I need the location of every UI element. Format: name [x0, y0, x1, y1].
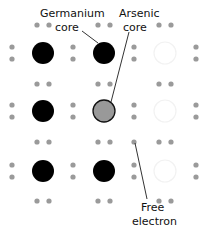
germanium-core — [93, 42, 115, 64]
valence-electron — [9, 102, 14, 107]
germanium-core — [32, 160, 54, 182]
valence-electron — [70, 44, 75, 49]
valence-electron — [131, 102, 136, 107]
valence-electron — [131, 114, 136, 119]
valence-electron — [34, 198, 39, 203]
valence-electron — [131, 44, 136, 49]
free-electron-label-line2: electron — [132, 215, 177, 228]
valence-electron — [46, 22, 51, 27]
valence-electron — [9, 162, 14, 167]
germanium-core — [93, 160, 115, 182]
valence-electron — [9, 114, 14, 119]
valence-electron — [95, 139, 100, 144]
valence-electron — [131, 162, 136, 167]
atom-cores — [32, 42, 176, 182]
valence-electron — [193, 56, 198, 61]
valence-electron — [168, 139, 173, 144]
valence-electron — [70, 102, 75, 107]
valence-electron — [95, 22, 100, 27]
valence-electron — [168, 81, 173, 86]
valence-electron — [34, 139, 39, 144]
faint-core — [154, 160, 176, 182]
germanium-label-line2: core — [55, 21, 79, 34]
valence-electron — [193, 174, 198, 179]
arsenic-leader-line — [111, 32, 129, 102]
valence-electron — [34, 81, 39, 86]
valence-electron — [131, 56, 136, 61]
valence-electron — [107, 198, 112, 203]
faint-core — [154, 100, 176, 122]
valence-electron — [70, 56, 75, 61]
free-electron-leader-line — [135, 143, 147, 199]
valence-electron — [107, 139, 112, 144]
valence-electron — [9, 56, 14, 61]
arsenic-core — [93, 100, 115, 122]
arsenic-label-line2: core — [123, 21, 147, 34]
germanium-core — [32, 42, 54, 64]
faint-core — [154, 42, 176, 64]
valence-electron — [193, 102, 198, 107]
valence-electron — [107, 81, 112, 86]
free-electron — [131, 139, 136, 144]
germanium-leader-line — [82, 31, 98, 43]
valence-electron — [193, 162, 198, 167]
valence-electron — [156, 139, 161, 144]
valence-electron — [168, 22, 173, 27]
valence-electron — [168, 198, 173, 203]
germanium-label-line1: Germanium — [40, 7, 105, 20]
valence-electron — [131, 174, 136, 179]
valence-electron — [156, 22, 161, 27]
valence-electron — [107, 22, 112, 27]
valence-electron — [70, 174, 75, 179]
valence-electron — [70, 162, 75, 167]
valence-electron — [9, 44, 14, 49]
lattice-diagram: Germanium core Arsenic core Free electro… — [0, 0, 208, 230]
valence-electron — [9, 174, 14, 179]
valence-electron — [193, 44, 198, 49]
valence-electron — [46, 198, 51, 203]
valence-electron — [193, 114, 198, 119]
valence-electron — [34, 22, 39, 27]
valence-electron — [156, 81, 161, 86]
valence-electron — [46, 81, 51, 86]
valence-electron — [70, 114, 75, 119]
valence-electron — [95, 198, 100, 203]
valence-electron — [46, 139, 51, 144]
valence-electron — [95, 81, 100, 86]
free-electron-label-line1: Free — [141, 201, 165, 214]
arsenic-label-line1: Arsenic — [119, 7, 160, 20]
germanium-core — [32, 100, 54, 122]
